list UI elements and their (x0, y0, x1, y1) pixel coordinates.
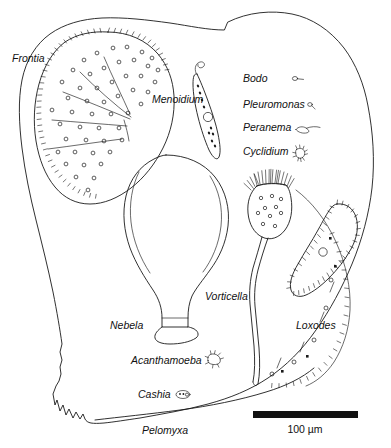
loxodes-outline (290, 204, 357, 297)
vorticella-stalk-right (255, 238, 268, 384)
label-nebela: Nebela (110, 319, 143, 331)
organism-cashia: Cashia (138, 388, 190, 400)
protozoa-size-comparison-figure: Pelomyxa (0, 0, 391, 448)
label-bodo: Bodo (243, 72, 268, 84)
nebela-inner-fold-left (130, 172, 150, 273)
small-organism-list: Bodo Pleuromonas Peranema (243, 72, 320, 162)
frontia-cilia-fringe (37, 28, 169, 198)
vorticella-granules (256, 194, 282, 227)
vorticella-ciliary-crown (244, 169, 294, 190)
pelomyxa-edge-cilia (272, 233, 350, 388)
label-peranema: Peranema (243, 121, 292, 133)
label-pleuromonas: Pleuromonas (243, 98, 306, 110)
organism-acanthamoeba: Acanthamoeba (130, 351, 223, 368)
cashia-glyph (176, 391, 190, 399)
vorticella-stalk-left (250, 237, 262, 382)
organism-pelomyxa: Pelomyxa (19, 12, 373, 436)
cyclidium-glyph (293, 145, 308, 162)
frontia-radiating-lines (48, 57, 131, 149)
loxodes-nucleus (319, 248, 327, 256)
figure-canvas: Pelomyxa (0, 0, 391, 448)
scale-bar-label: 100 µm (287, 423, 322, 435)
label-vorticella: Vorticella (205, 290, 248, 302)
scale-bar-rect (253, 411, 358, 418)
label-loxodes: Loxodes (296, 319, 336, 331)
scale-bar: 100 µm (253, 411, 358, 435)
organism-vorticella: Vorticella (205, 169, 294, 385)
organism-pleuromonas: Pleuromonas (243, 98, 315, 110)
organism-frontia: Frontia (12, 28, 174, 204)
organism-bodo: Bodo (243, 72, 304, 84)
vorticella-bell-outline (248, 184, 292, 239)
label-pelomyxa: Pelomyxa (142, 424, 188, 436)
pelomyxa-inner-dark-granules (281, 237, 337, 373)
acanthamoeba-glyph (205, 351, 223, 368)
label-cashia: Cashia (138, 388, 171, 400)
organism-menoidium: Menoidium (152, 62, 220, 159)
pelomyxa-inner-edge (296, 190, 350, 386)
menoidium-flagellum (195, 62, 204, 73)
organism-cyclidium: Cyclidium (243, 145, 308, 162)
frontia-granules (50, 45, 160, 192)
menoidium-nucleus (203, 112, 212, 121)
label-cyclidium: Cyclidium (243, 145, 289, 157)
label-frontia: Frontia (12, 52, 45, 64)
bodo-glyph (292, 77, 303, 81)
label-menoidium: Menoidium (152, 93, 204, 105)
label-acanthamoeba: Acanthamoeba (130, 354, 202, 366)
nebela-inner-fold-right (203, 176, 222, 272)
pleuromonas-glyph (308, 103, 315, 109)
peranema-glyph (296, 127, 320, 133)
organism-nebela: Nebela (110, 155, 228, 344)
nebela-pseudostome-lobe (155, 327, 198, 344)
organism-peranema: Peranema (243, 121, 320, 133)
pelomyxa-inner-contour (270, 190, 350, 388)
